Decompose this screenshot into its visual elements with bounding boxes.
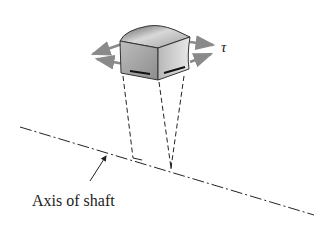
- shear-arrows-left: [93, 44, 124, 64]
- stress-element-block: [120, 26, 190, 81]
- tau-symbol-label: τ: [221, 39, 227, 55]
- projection-foot: [133, 158, 171, 169]
- projection-lines: [123, 76, 184, 168]
- axis-of-shaft-label: Axis of shaft: [32, 192, 115, 209]
- shaft-element-diagram: τ Axis of shaft: [0, 0, 333, 231]
- axis-leader-arrow: [90, 156, 106, 181]
- shear-arrows-right: [190, 42, 213, 62]
